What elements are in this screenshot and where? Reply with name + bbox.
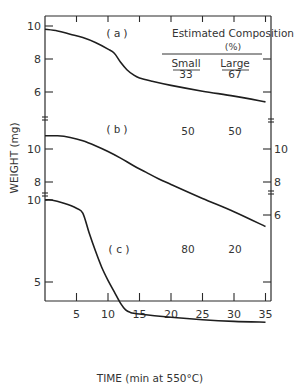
x-tick-label: 5 (73, 308, 80, 321)
panel-b-small: 50 (181, 125, 194, 137)
y-tick-label: 5 (34, 276, 41, 289)
panel-a-label: (a) (105, 27, 131, 40)
x-tick-label: 20 (164, 308, 178, 321)
weight-loss-chart: 5101520253035 10861081086105 Estimated C… (0, 0, 297, 392)
x-axis-title: TIME (min at 550°C) (96, 372, 203, 384)
panel-a-small: 33 (179, 68, 192, 80)
x-tick-label: 30 (227, 308, 241, 321)
right-y-tick-label: 10 (274, 143, 288, 156)
y-tick-label: 10 (27, 194, 41, 207)
panel-c-label: (c) (107, 243, 133, 256)
y-tick-label: 6 (34, 86, 41, 99)
legend-header: Estimated Composition (172, 27, 294, 39)
panel-c-small: 80 (181, 243, 194, 255)
legend-unit: (%) (225, 41, 241, 52)
x-tick-label: 10 (101, 308, 115, 321)
y-tick-label: 8 (34, 53, 41, 66)
y-axis-title: WEIGHT (mg) (8, 123, 20, 194)
right-y-tick-label: 8 (274, 176, 281, 189)
curve-panel-c (45, 200, 266, 322)
right-y-tick-label: 6 (274, 209, 281, 222)
y-tick-label: 8 (34, 176, 41, 189)
panel-b-large: 50 (228, 125, 241, 137)
y-tick-label: 10 (27, 20, 41, 33)
curve-panel-b (45, 136, 266, 227)
y-tick-label: 10 (27, 143, 41, 156)
panel-c-large: 20 (228, 243, 241, 255)
panel-a-large: 67 (228, 68, 241, 80)
x-tick-label: 35 (259, 308, 273, 321)
panel-b-label: (b) (105, 123, 131, 136)
